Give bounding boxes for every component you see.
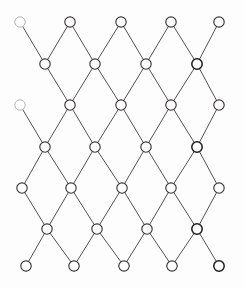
lattice-edge <box>171 22 197 64</box>
lattice-edge <box>74 229 97 266</box>
lattice-edge <box>70 105 95 147</box>
lattice-node <box>65 100 75 110</box>
lattice-node <box>40 142 50 152</box>
lattice-edge <box>147 229 172 266</box>
lattice-edge <box>171 188 197 229</box>
lattice-node <box>40 59 50 69</box>
lattice-node <box>66 183 76 193</box>
lattice-edge <box>71 188 97 229</box>
lattice-node <box>92 224 102 234</box>
lattice-node <box>65 17 75 27</box>
lattice-node <box>17 183 27 193</box>
lattice-node <box>116 17 126 27</box>
lattice-node <box>214 100 224 110</box>
lattice-node <box>142 224 152 234</box>
lattice-node <box>214 17 224 27</box>
lattice-diagram-canvas <box>0 0 244 289</box>
lattice-edge <box>172 229 197 266</box>
lattice-edge <box>70 64 95 105</box>
lattice-edge <box>197 147 219 188</box>
lattice-node <box>119 261 129 271</box>
lattice-edge <box>95 64 121 105</box>
lattice-edge <box>146 105 171 147</box>
lattice-node <box>90 59 100 69</box>
lattice-node <box>166 100 176 110</box>
lattice-edge <box>146 147 171 188</box>
lattice-node <box>141 142 151 152</box>
lattice-node <box>141 59 151 69</box>
lattice-edge <box>47 229 74 266</box>
lattice-edge <box>121 105 146 147</box>
lattice-edge <box>124 229 147 266</box>
lattice-edge <box>171 147 197 188</box>
lattice-edge <box>121 22 146 64</box>
lattice-edge <box>95 22 121 64</box>
lattice-edge <box>71 147 95 188</box>
lattice-node <box>214 183 224 193</box>
lattice-node <box>166 17 176 27</box>
node-layer <box>15 17 224 271</box>
lattice-edge <box>20 105 45 147</box>
lattice-node <box>192 59 202 69</box>
lattice-edge <box>147 188 171 229</box>
lattice-edge <box>45 105 70 147</box>
lattice-node <box>117 183 127 193</box>
lattice-edge <box>122 147 146 188</box>
lattice-edge <box>146 22 171 64</box>
lattice-edge <box>45 147 71 188</box>
lattice-node <box>42 224 52 234</box>
lattice-edge <box>22 188 47 229</box>
lattice-edge <box>197 64 219 105</box>
lattice-edge <box>20 22 45 64</box>
lattice-edge <box>26 229 47 266</box>
lattice-edge <box>47 188 71 229</box>
lattice-edge <box>95 105 121 147</box>
lattice-edge <box>197 22 219 64</box>
lattice-node <box>15 100 25 110</box>
lattice-node <box>21 261 31 271</box>
lattice-node <box>15 17 25 27</box>
lattice-edge <box>70 22 95 64</box>
lattice-node <box>166 183 176 193</box>
lattice-edge <box>171 64 197 105</box>
lattice-node <box>167 261 177 271</box>
lattice-edge <box>22 147 45 188</box>
lattice-edge <box>171 105 197 147</box>
lattice-node <box>116 100 126 110</box>
lattice-diagram <box>0 0 244 289</box>
lattice-edge <box>45 64 70 105</box>
lattice-edge <box>197 229 219 266</box>
lattice-edge <box>122 188 147 229</box>
lattice-edge <box>197 188 219 229</box>
lattice-edge <box>97 229 124 266</box>
lattice-edge <box>146 64 171 105</box>
lattice-node <box>90 142 100 152</box>
lattice-edge <box>197 105 219 147</box>
lattice-edge <box>45 22 70 64</box>
lattice-edge <box>97 188 122 229</box>
lattice-node <box>192 142 202 152</box>
lattice-edge <box>95 147 122 188</box>
lattice-edge <box>121 64 146 105</box>
lattice-node <box>69 261 79 271</box>
lattice-node <box>214 261 224 271</box>
lattice-node <box>192 224 202 234</box>
